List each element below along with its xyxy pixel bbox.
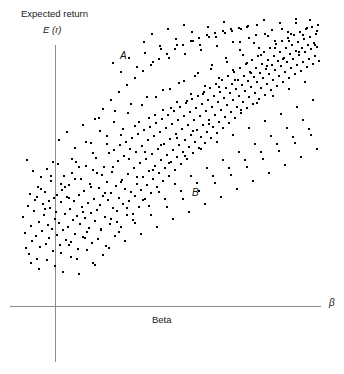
data-point xyxy=(310,134,312,136)
data-point xyxy=(179,106,181,108)
data-point xyxy=(264,33,266,35)
data-point xyxy=(158,172,160,174)
data-point xyxy=(59,244,61,246)
data-point xyxy=(239,41,241,43)
data-point xyxy=(199,44,201,46)
data-point xyxy=(183,115,185,117)
data-point xyxy=(30,262,32,264)
data-point xyxy=(136,176,138,178)
data-point xyxy=(154,114,156,116)
data-point xyxy=(238,27,240,29)
data-point xyxy=(149,126,151,128)
data-point xyxy=(259,72,261,74)
data-point xyxy=(42,203,44,205)
data-point xyxy=(222,30,224,32)
data-point xyxy=(134,195,136,197)
data-point xyxy=(310,48,312,50)
data-point xyxy=(286,61,288,63)
annotation-b: B xyxy=(192,188,199,198)
data-point xyxy=(227,75,229,77)
plot-area: AB xyxy=(0,0,344,374)
data-point xyxy=(260,54,262,56)
data-point xyxy=(107,199,109,201)
data-point xyxy=(256,81,258,83)
data-point xyxy=(212,126,214,128)
data-point xyxy=(240,112,242,114)
data-point xyxy=(97,238,99,240)
data-point xyxy=(150,64,152,66)
data-point xyxy=(254,143,256,145)
data-point xyxy=(237,79,239,81)
data-point xyxy=(234,79,236,81)
data-point xyxy=(318,60,320,62)
data-point xyxy=(46,168,48,170)
data-point xyxy=(162,109,164,111)
data-point xyxy=(304,81,306,83)
data-point xyxy=(225,57,227,59)
data-point xyxy=(169,138,171,140)
data-point xyxy=(268,172,270,174)
data-point xyxy=(229,92,231,94)
data-point xyxy=(44,191,46,193)
data-point xyxy=(288,77,290,79)
data-point xyxy=(192,40,194,42)
data-point xyxy=(207,99,209,101)
data-point xyxy=(270,135,272,137)
data-point xyxy=(170,107,172,109)
data-point xyxy=(295,18,297,20)
data-point xyxy=(110,99,112,101)
data-point xyxy=(134,222,136,224)
data-point xyxy=(288,40,290,42)
data-point xyxy=(228,167,230,169)
data-point xyxy=(158,58,160,60)
data-point xyxy=(29,193,31,195)
data-point xyxy=(300,70,302,72)
data-point xyxy=(167,114,169,116)
data-point xyxy=(114,110,116,112)
data-point xyxy=(263,51,265,53)
data-point xyxy=(74,147,76,149)
data-point xyxy=(255,34,257,36)
data-point xyxy=(316,148,318,150)
data-point xyxy=(99,204,101,206)
data-point xyxy=(312,99,314,101)
data-point xyxy=(296,64,298,66)
data-point xyxy=(291,44,293,46)
data-point xyxy=(248,127,250,129)
data-point xyxy=(189,111,191,113)
data-point xyxy=(215,36,217,38)
data-point xyxy=(168,175,170,177)
data-point xyxy=(113,149,115,151)
data-point xyxy=(138,121,140,123)
data-point xyxy=(314,44,316,46)
data-point xyxy=(183,24,185,26)
data-point xyxy=(43,214,45,216)
data-point xyxy=(78,166,80,168)
data-point xyxy=(224,32,226,34)
data-point xyxy=(215,83,217,85)
data-point xyxy=(256,102,258,104)
data-point xyxy=(183,80,185,82)
data-point xyxy=(272,95,274,97)
data-point xyxy=(216,141,218,143)
data-point xyxy=(190,93,192,95)
data-point xyxy=(55,211,57,213)
data-point xyxy=(70,256,72,258)
data-point xyxy=(49,207,51,209)
data-point xyxy=(40,188,42,190)
data-point xyxy=(165,127,167,129)
data-point xyxy=(211,106,213,108)
data-point xyxy=(60,183,62,185)
data-point xyxy=(88,227,90,229)
data-point xyxy=(68,197,70,199)
data-point xyxy=(239,49,241,51)
data-point xyxy=(119,144,121,146)
data-point xyxy=(185,102,187,104)
data-point xyxy=(64,186,66,188)
data-point xyxy=(302,61,304,63)
data-point xyxy=(251,59,253,61)
data-point xyxy=(309,19,311,21)
data-point xyxy=(51,228,53,230)
data-point xyxy=(246,166,248,168)
data-point xyxy=(154,165,156,167)
